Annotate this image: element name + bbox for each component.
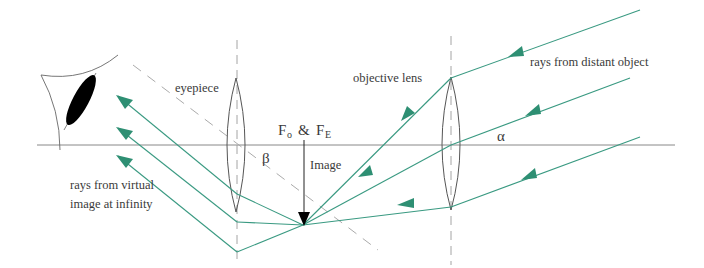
arrow-icon [508, 46, 524, 57]
diagonal-dashed-line [133, 65, 378, 250]
focal-points-label: F o & F E [278, 122, 331, 140]
svg-text:&: & [298, 122, 310, 138]
eyepiece-label: eyepiece [175, 81, 219, 95]
arrow-icon [521, 168, 537, 180]
ray-arrowheads [116, 46, 541, 208]
outgoing-rays [118, 96, 303, 252]
svg-text:F: F [278, 122, 286, 138]
image-label: Image [310, 158, 342, 172]
beta-label: β [262, 150, 270, 166]
arrow-icon [358, 165, 373, 177]
eye [41, 55, 118, 150]
svg-text:o: o [287, 129, 292, 140]
telescope-ray-diagram: eyepiece objective lens rays from distan… [0, 0, 704, 268]
arrow-icon [525, 104, 541, 116]
svg-text:E: E [325, 129, 331, 140]
arrow-icon [401, 106, 415, 121]
rays-distant-label: rays from distant object [530, 55, 649, 69]
rays-virtual-label-line1: rays from virtual [70, 178, 155, 192]
rays-virtual-label-line2: image at infinity [70, 197, 153, 211]
alpha-label: α [497, 128, 505, 144]
image-arrow [298, 140, 310, 226]
objective-lens-label: objective lens [353, 71, 422, 85]
arrow-icon [397, 198, 414, 208]
svg-text:F: F [316, 122, 324, 138]
incoming-rays [303, 10, 640, 225]
